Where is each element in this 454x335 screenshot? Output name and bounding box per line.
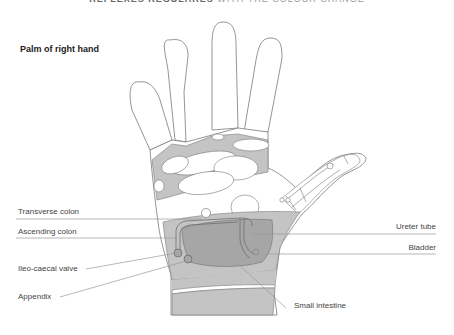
label-bladder: Bladder [408, 243, 436, 252]
label-ileo-caecal-valve: Ileo-caecal valve [18, 264, 78, 273]
wrist-band-lower [172, 288, 275, 315]
hand-reflexology-diagram [0, 0, 454, 335]
middle-finger [212, 22, 238, 130]
little-finger [130, 82, 172, 150]
small-intestine-region [182, 219, 273, 266]
label-small-intestine: Small intestine [294, 301, 346, 310]
transverse-colon-point [202, 209, 211, 218]
appendix-point [184, 255, 192, 263]
label-ureter-tube: Ureter tube [396, 222, 436, 231]
label-appendix: Appendix [18, 292, 51, 301]
label-ascending-colon: Ascending colon [18, 227, 77, 236]
label-transverse-colon: Transverse colon [18, 207, 79, 216]
bladder-point [253, 249, 259, 255]
index-finger [244, 38, 282, 132]
